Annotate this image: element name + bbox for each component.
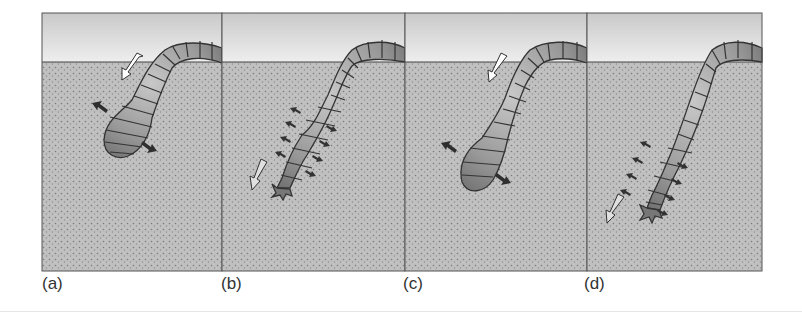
soil-area	[42, 62, 222, 271]
burrowing-diagram	[0, 0, 802, 313]
panel-label-b: (b)	[221, 274, 242, 294]
bottom-divider	[0, 311, 802, 312]
soil-area	[222, 62, 405, 271]
panel-b	[222, 13, 405, 271]
panel-a	[42, 13, 222, 271]
panel-c	[405, 13, 587, 271]
panel-d	[587, 13, 762, 271]
panel-label-a: (a)	[42, 274, 63, 294]
panel-label-d: (d)	[584, 274, 605, 294]
panel-label-c: (c)	[403, 274, 423, 294]
